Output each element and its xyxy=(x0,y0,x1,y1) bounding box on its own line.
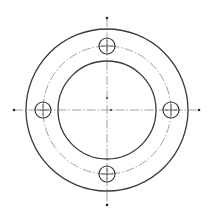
flange-drawing xyxy=(0,0,212,219)
bolt-hole-left xyxy=(35,102,51,118)
centerline-end-dot-left xyxy=(13,109,16,112)
center-mark xyxy=(110,109,112,111)
centerline-end-dot-right xyxy=(198,109,201,112)
centerline-end-dot-top xyxy=(106,17,109,20)
bolt-hole-top xyxy=(99,38,115,54)
center-mark-upper xyxy=(106,97,108,99)
bolt-hole-bottom xyxy=(99,166,115,182)
centerline-end-dot-bottom xyxy=(106,204,109,207)
bolt-hole-right xyxy=(163,102,179,118)
